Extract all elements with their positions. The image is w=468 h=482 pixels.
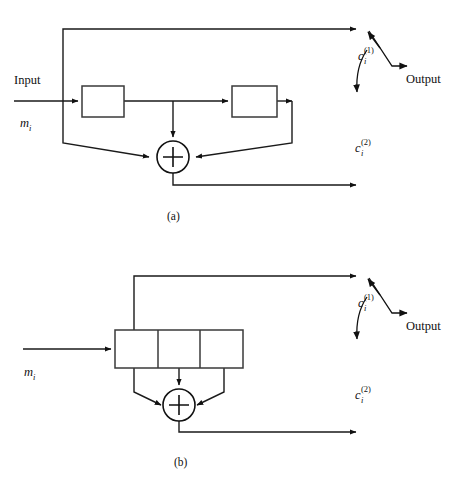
label-code1-a: c i (1) [358,45,374,66]
wire-a-bottom-output [173,173,356,185]
wire-b-top-output [134,276,356,330]
label-message-symbol-b: m [24,365,33,379]
label-code2-superscript-a: (2) [361,137,371,147]
delay-box-a-2 [232,86,277,117]
label-message-subscript-b: i [33,372,36,382]
figure-root: Input m i c i (1) Output c i (2) (a) m i [0,0,468,482]
label-code2-superscript-b: (2) [361,384,371,394]
brace-a-lines [369,31,407,66]
encoder-diagram-svg: Input m i c i (1) Output c i (2) (a) m i [0,0,468,482]
label-code1-b: c i (1) [358,292,374,313]
label-code1-subscript-b: i [364,303,367,313]
label-message-b: m i [24,365,36,382]
caption-b: (b) [174,456,188,469]
label-message-symbol-a: m [20,116,29,130]
label-input-a: Input [14,73,41,87]
label-code2-a: c i (2) [355,137,371,158]
label-output-b: Output [406,319,441,333]
label-code2-subscript-b: i [361,395,364,405]
label-output-a: Output [406,72,441,86]
label-code2-b: c i (2) [355,384,371,405]
shift-register-b [115,330,243,368]
label-code1-superscript-a: (1) [364,45,374,55]
label-code2-subscript-a: i [361,148,364,158]
delay-box-a-1 [82,86,124,117]
wire-b-cell3-to-adder [197,368,224,405]
caption-a: (a) [167,210,180,223]
brace-b-lines [369,278,407,313]
label-code1-superscript-b: (1) [364,292,374,302]
wire-b-cell1-to-adder [134,368,161,405]
adder-b [163,389,195,421]
wire-b-bottom-output [179,421,356,432]
shift-register-outline [115,330,243,368]
adder-a [157,141,189,173]
label-message-a: m i [20,116,32,133]
label-message-subscript-a: i [29,123,32,133]
label-code1-subscript-a: i [364,56,367,66]
